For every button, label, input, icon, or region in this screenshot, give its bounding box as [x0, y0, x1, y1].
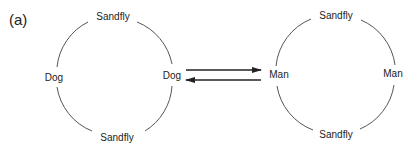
right-cycle-circle [276, 19, 395, 130]
left-top-label: Sandfly [96, 11, 129, 22]
left-cycle-circle [57, 22, 172, 131]
right-bottom-label: Sandfly [319, 129, 352, 140]
right-right-label: Man [383, 68, 402, 79]
left-bottom-label: Sandfly [100, 132, 133, 143]
panel-label: (a) [9, 11, 27, 28]
right-top-label: Sandfly [319, 10, 352, 21]
left-left-label: Dog [45, 72, 63, 83]
right-left-label: Man [269, 69, 288, 80]
left-right-label: Dog [163, 70, 181, 81]
